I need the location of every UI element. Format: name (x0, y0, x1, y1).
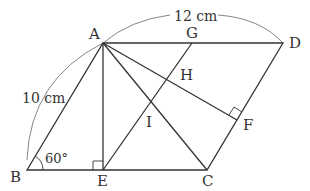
dimension-ad: 12 cm (174, 8, 217, 24)
label-h: H (180, 66, 193, 84)
label-d: D (289, 34, 301, 52)
angle-arc-b (35, 156, 43, 170)
segment-ac (103, 43, 207, 170)
label-f: F (243, 116, 253, 134)
segment-eg (103, 43, 192, 170)
label-g: G (186, 24, 198, 42)
segment-af (103, 43, 237, 120)
right-angle-mark-e (93, 161, 103, 170)
label-e: E (97, 172, 108, 190)
dimension-ab: 10 cm (22, 90, 65, 106)
label-c: C (202, 172, 213, 190)
arc-ad-dimension (103, 15, 170, 43)
geometry-diagram: A G D H I F B E C 10 cm 12 cm 60° (0, 0, 310, 191)
label-a: A (88, 25, 100, 43)
angle-label-b: 60° (45, 151, 68, 166)
arc-ad-dimension-right (218, 15, 283, 43)
label-i: I (146, 113, 152, 131)
label-b: B (10, 168, 21, 186)
